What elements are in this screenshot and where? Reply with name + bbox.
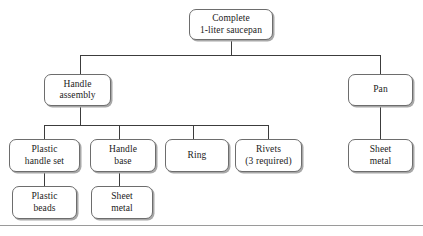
node-plastic-handle-set: Plastic handle set bbox=[9, 139, 80, 172]
node-label: Rivets (3 required) bbox=[242, 144, 294, 167]
node-label: Plastic handle set bbox=[22, 144, 67, 167]
node-pan-sheet-metal: Sheet metal bbox=[348, 139, 413, 172]
node-ring: Ring bbox=[165, 139, 229, 172]
node-handle-sheet-metal: Sheet metal bbox=[91, 186, 153, 219]
node-label: Sheet metal bbox=[108, 191, 136, 214]
node-label: Ring bbox=[185, 150, 210, 162]
footer-divider bbox=[0, 225, 423, 226]
node-complete-saucepan: Complete 1-liter saucepan bbox=[189, 9, 273, 40]
node-rivets: Rivets (3 required) bbox=[235, 139, 302, 172]
product-structure-tree-diagram: Complete 1-liter saucepan Handle assembl… bbox=[0, 0, 423, 236]
node-label: Pan bbox=[370, 84, 391, 96]
node-plastic-beads: Plastic beads bbox=[12, 186, 77, 219]
node-pan: Pan bbox=[348, 74, 413, 106]
node-label: Plastic beads bbox=[28, 191, 60, 214]
node-label: Sheet metal bbox=[367, 144, 395, 167]
node-label: Handle base bbox=[106, 144, 140, 167]
node-label: Complete 1-liter saucepan bbox=[197, 13, 265, 36]
node-handle-assembly: Handle assembly bbox=[44, 74, 111, 106]
node-handle-base: Handle base bbox=[90, 139, 156, 172]
node-label: Handle assembly bbox=[56, 79, 98, 102]
